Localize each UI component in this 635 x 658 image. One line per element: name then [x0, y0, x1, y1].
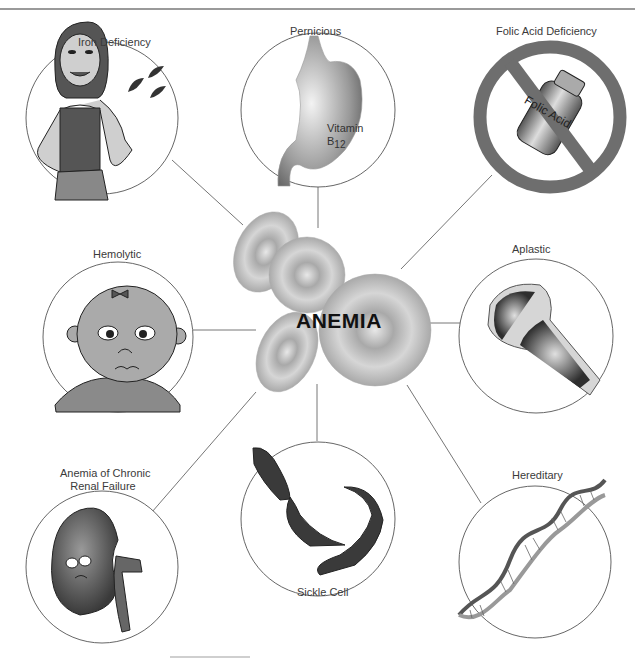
connector-hereditary — [407, 385, 481, 503]
label-renal-line1: Anemia of Chronic — [60, 467, 146, 480]
b12-label: B12 — [327, 135, 363, 151]
label-iron-deficiency: Iron Deficiency — [78, 36, 151, 49]
label-hereditary: Hereditary — [512, 469, 563, 482]
connector-folic — [401, 175, 492, 269]
center-title-anemia: ANEMIA — [296, 309, 382, 333]
label-aplastic: Aplastic — [512, 243, 551, 256]
label-hemolytic: Hemolytic — [93, 248, 141, 261]
stomach-vitamin-text: Vitamin B12 — [327, 122, 363, 151]
label-renal-failure: Anemia of Chronic Renal Failure — [60, 467, 146, 493]
label-pernicious: Pernicious — [290, 25, 341, 38]
label-renal-line2: Renal Failure — [60, 480, 146, 493]
red-blood-cells-icon — [221, 201, 431, 402]
vitamin-label: Vitamin — [327, 122, 363, 135]
label-folic-acid-deficiency: Folic Acid Deficiency — [496, 25, 597, 38]
label-sickle-cell: Sickle Cell — [297, 586, 348, 599]
connector-iron — [172, 160, 243, 225]
